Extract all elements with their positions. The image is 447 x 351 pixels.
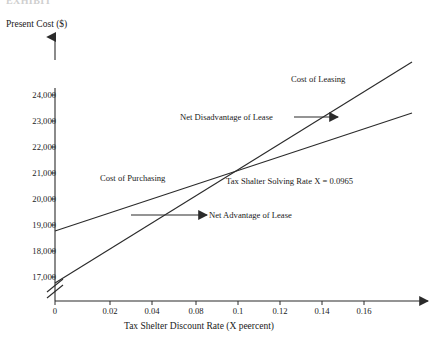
x-tick-marks <box>55 301 364 305</box>
chart-figure: EXHIBIT Present Cost ($) Tax Shelter Dis… <box>0 0 447 351</box>
series-line-cost-of-purchasing <box>55 113 412 231</box>
chart-canvas <box>0 0 447 351</box>
y-tick-marks <box>51 95 55 277</box>
